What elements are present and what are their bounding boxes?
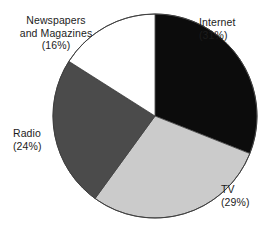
pie-label-newspapers-line2: and Magazines (6, 27, 106, 40)
pie-label-newspapers-and-magazines: Newspapers and Magazines (16%) (6, 14, 106, 52)
pie-label-tv-percent: (29%) (221, 196, 250, 209)
pie-label-radio: Radio (24%) (13, 127, 42, 152)
pie-label-newspapers-percent: (16%) (6, 39, 106, 52)
pie-label-internet-name: Internet (199, 16, 235, 28)
pie-label-newspapers-line1: Newspapers (26, 14, 85, 26)
pie-label-tv-name: TV (221, 183, 235, 195)
pie-label-radio-percent: (24%) (13, 140, 42, 153)
pie-label-radio-name: Radio (13, 127, 41, 139)
pie-label-internet: Internet (31%) (199, 16, 235, 41)
pie-label-internet-percent: (31%) (199, 29, 235, 42)
pie-label-tv: TV (29%) (221, 183, 250, 208)
pie-chart-figure: Newspapers and Magazines (16%) Internet … (0, 0, 274, 233)
